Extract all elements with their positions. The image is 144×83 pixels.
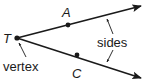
- label-a: A: [61, 5, 71, 20]
- vertex-pointer-arrow: [19, 43, 26, 57]
- ray-ta: [17, 6, 141, 38]
- label-t: T: [3, 31, 12, 46]
- sides-pointer-lower-arrow: [107, 50, 113, 62]
- vertex-label: vertex: [3, 59, 39, 74]
- angle-diagram: T A C sides vertex: [0, 0, 144, 83]
- point-c: [75, 53, 80, 58]
- point-t: [14, 35, 19, 40]
- label-c: C: [72, 66, 82, 81]
- angle-figure: T A C sides vertex: [0, 0, 144, 83]
- point-a: [66, 23, 71, 28]
- sides-label: sides: [97, 35, 128, 50]
- sides-pointer-upper-arrow: [107, 19, 113, 34]
